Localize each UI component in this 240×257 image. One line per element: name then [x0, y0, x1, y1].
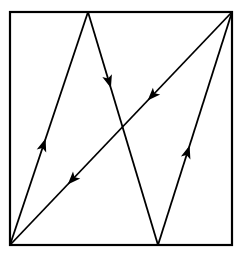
directed-path-diagram: [0, 0, 240, 257]
